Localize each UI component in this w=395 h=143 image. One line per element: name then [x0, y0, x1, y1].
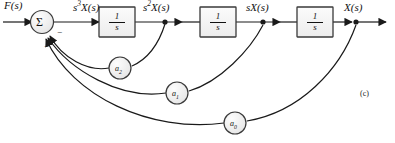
integrator-1-numerator: 1	[109, 12, 125, 21]
signal-label-s2x: s2X(s)	[143, 0, 169, 13]
wire-gain-a1-to-sum	[48, 38, 166, 94]
gain-label-a1: a1	[172, 89, 179, 100]
signal-s3x-arg: (s)	[88, 1, 100, 13]
signal-s2x-arg: (s)	[158, 1, 170, 13]
signal-sx-arg: (s)	[257, 1, 269, 13]
diagram-canvas	[0, 0, 395, 143]
wire-node-s2x-to-gain-a2	[132, 24, 165, 66]
integrator-2-transfer-function: 1 s	[210, 12, 226, 33]
integrator-3-numerator: 1	[307, 12, 323, 21]
gain-label-a0: a0	[230, 119, 237, 130]
block-diagram-figure: Σ − − − F(s) s3X(s) s2X(s) sX(s) X(s) 1 …	[0, 0, 395, 143]
integrator-2-numerator: 1	[210, 12, 226, 21]
integrator-1-transfer-function: 1 s	[109, 12, 125, 33]
wire-gain-a0-to-sum	[46, 39, 224, 125]
gain-a0-subscript: 0	[234, 124, 237, 130]
minus-sign-feedback-1: −	[57, 28, 62, 37]
signal-label-input: F(s)	[4, 0, 22, 11]
gain-a2-subscript: 2	[119, 69, 122, 75]
wire-output-to-gain-a0	[247, 25, 356, 121]
signal-label-output: X(s)	[344, 0, 362, 13]
integrator-2-denominator: s	[210, 23, 226, 32]
gain-label-a2: a2	[115, 64, 122, 75]
signal-input-base: F	[4, 0, 11, 11]
takeoff-dot-x	[353, 19, 358, 24]
signal-output-arg: (s)	[351, 1, 363, 13]
signal-s2x-var: X	[151, 1, 158, 13]
integrator-3-denominator: s	[307, 23, 323, 32]
integrator-3-transfer-function: 1 s	[307, 12, 323, 33]
signal-label-s3x: s3X(s)	[73, 0, 99, 13]
gain-a1-subscript: 1	[176, 94, 179, 100]
signal-output-var: X	[344, 1, 351, 13]
signal-s3x-var: X	[81, 1, 88, 13]
signal-sx-var: X	[250, 1, 257, 13]
minus-sign-feedback-2: −	[50, 36, 55, 45]
signal-label-sx: sX(s)	[246, 0, 269, 13]
takeoff-dot-sx	[260, 19, 265, 24]
signal-input-arg: (s)	[11, 0, 23, 11]
figure-part-label: (c)	[360, 90, 369, 98]
takeoff-dot-s2x	[162, 19, 167, 24]
summing-junction-symbol: Σ	[36, 15, 43, 30]
minus-sign-feedback-3: −	[44, 42, 49, 51]
integrator-1-denominator: s	[109, 23, 125, 32]
